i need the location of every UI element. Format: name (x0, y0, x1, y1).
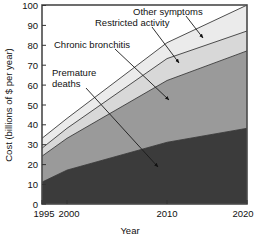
annotation-chronic-bronchitis: Chronic bronchitis (54, 39, 130, 50)
y-tick-label-80: 80 (27, 40, 38, 51)
annotation-premature-deaths-line1: Premature (52, 67, 96, 78)
x-axis-title: Year (120, 225, 139, 236)
y-tick-label-30: 30 (27, 139, 38, 150)
annotation-other-symptoms: Other symptoms (133, 6, 203, 17)
annotation-premature-deaths-line2: deaths (52, 78, 81, 89)
y-axis-title: Cost (billions of $ per year) (3, 48, 14, 162)
x-tick-label-2000: 2000 (58, 208, 79, 219)
y-tick-label-60: 60 (27, 80, 38, 91)
stacked-area-chart: 100 90 80 70 60 50 40 30 20 10 0 1995 20… (0, 0, 258, 243)
y-tick-label-90: 90 (27, 20, 38, 31)
y-tick-label-70: 70 (27, 60, 38, 71)
x-tick-label-1995: 1995 (33, 208, 54, 219)
y-tick-label-40: 40 (27, 119, 38, 130)
x-tick-label-2020: 2020 (232, 208, 253, 219)
y-tick-label-50: 50 (27, 100, 38, 111)
chart-figure: 100 90 80 70 60 50 40 30 20 10 0 1995 20… (0, 0, 258, 243)
y-tick-label-100: 100 (22, 0, 38, 11)
annotation-restricted-activity: Restricted activity (95, 17, 170, 28)
x-tick-label-2010: 2010 (156, 208, 177, 219)
y-tick-label-10: 10 (27, 179, 38, 190)
y-tick-label-20: 20 (27, 159, 38, 170)
